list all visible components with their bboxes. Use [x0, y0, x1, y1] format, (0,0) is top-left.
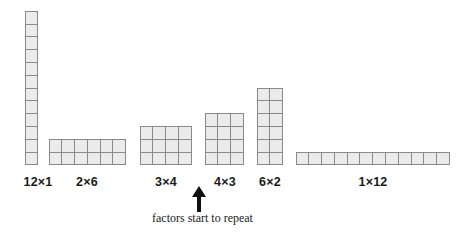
- array-cell: [152, 139, 166, 153]
- array-cell: [25, 11, 39, 25]
- array-cell: [321, 152, 335, 166]
- array-cell: [257, 139, 271, 153]
- array-cell: [308, 152, 322, 166]
- array-cell: [257, 152, 271, 166]
- array-cell: [25, 36, 39, 50]
- factor-label-2x6: 2×6: [76, 175, 98, 189]
- array-cell: [74, 152, 88, 166]
- array-cell: [165, 126, 179, 140]
- array-cell: [61, 152, 75, 166]
- array-cell: [347, 152, 361, 166]
- array-cell: [269, 152, 283, 166]
- array-cell: [178, 139, 192, 153]
- array-cell: [87, 152, 101, 166]
- array-cell: [178, 126, 192, 140]
- array-cell: [25, 113, 39, 127]
- up-arrow-icon: [191, 186, 207, 212]
- array-cell: [205, 126, 219, 140]
- array-cell: [178, 152, 192, 166]
- array-cell: [49, 139, 63, 153]
- array-cell: [152, 126, 166, 140]
- array-cell: [205, 152, 219, 166]
- array-cell: [398, 152, 412, 166]
- array-cell: [25, 100, 39, 114]
- array-cell: [334, 152, 348, 166]
- array-cell: [257, 100, 271, 114]
- array-cell: [257, 126, 271, 140]
- factor-label-4x3: 4×3: [214, 175, 236, 189]
- annotation-caption: factors start to repeat: [152, 211, 253, 226]
- array-cell: [112, 152, 126, 166]
- array-cell: [385, 152, 399, 166]
- array-cell: [257, 88, 271, 102]
- array-cell: [87, 139, 101, 153]
- factor-array-6x2: [257, 88, 283, 165]
- factor-array-3x4: [140, 127, 191, 165]
- factor-array-12x1: [25, 11, 38, 165]
- array-cell: [25, 49, 39, 63]
- array-cell: [49, 152, 63, 166]
- factor-label-12x1: 12×1: [24, 175, 53, 189]
- factor-label-3x4: 3×4: [155, 175, 177, 189]
- array-cell: [217, 139, 231, 153]
- factor-array-2x6: [49, 139, 126, 165]
- factor-label-6x2: 6×2: [259, 175, 281, 189]
- array-cell: [140, 139, 154, 153]
- array-cell: [140, 152, 154, 166]
- array-cell: [269, 113, 283, 127]
- array-cell: [165, 152, 179, 166]
- array-cell: [25, 24, 39, 38]
- array-cell: [296, 152, 310, 166]
- array-cell: [230, 113, 244, 127]
- array-cell: [205, 113, 219, 127]
- factor-label-1x12: 1×12: [359, 175, 388, 189]
- array-cell: [61, 139, 75, 153]
- array-cell: [217, 113, 231, 127]
- array-cell: [100, 152, 114, 166]
- array-cell: [269, 100, 283, 114]
- array-cell: [25, 75, 39, 89]
- array-cell: [436, 152, 450, 166]
- array-cell: [152, 152, 166, 166]
- array-cell: [205, 139, 219, 153]
- array-cell: [230, 152, 244, 166]
- array-cell: [217, 152, 231, 166]
- array-cell: [25, 62, 39, 76]
- array-cell: [230, 126, 244, 140]
- array-cell: [25, 152, 39, 166]
- array-cell: [25, 126, 39, 140]
- factor-array-1x12: [296, 152, 450, 165]
- factor-array-4x3: [205, 114, 243, 165]
- array-cell: [165, 139, 179, 153]
- array-cell: [269, 139, 283, 153]
- array-cell: [140, 126, 154, 140]
- array-cell: [217, 126, 231, 140]
- array-cell: [257, 113, 271, 127]
- array-cell: [359, 152, 373, 166]
- array-cell: [269, 88, 283, 102]
- factor-array-diagram: 12×12×63×44×36×21×12 factors start to re…: [0, 0, 465, 238]
- array-cell: [372, 152, 386, 166]
- array-cell: [112, 139, 126, 153]
- array-cell: [25, 139, 39, 153]
- array-cell: [25, 88, 39, 102]
- array-cell: [100, 139, 114, 153]
- array-cell: [269, 126, 283, 140]
- array-cell: [74, 139, 88, 153]
- array-cell: [423, 152, 437, 166]
- array-cell: [230, 139, 244, 153]
- array-cell: [411, 152, 425, 166]
